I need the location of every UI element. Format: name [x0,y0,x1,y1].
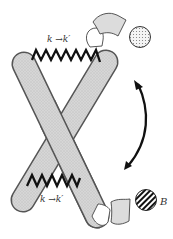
top-spring-label: k →k′ [47,34,70,44]
dotted-ball [130,27,151,48]
striped-ball-b [136,190,157,211]
bottom-curled-sheet [111,199,130,224]
bottom-spring-label: k →k′ [40,194,63,204]
top-ligand-group [86,13,150,47]
curved-double-arrow [124,80,146,170]
ball-b-label: B [159,196,167,207]
bottom-ligand-group: B [92,190,167,226]
top-spring [32,50,100,62]
x-rods-diagram: k →k′ k →k′ B [0,0,173,239]
